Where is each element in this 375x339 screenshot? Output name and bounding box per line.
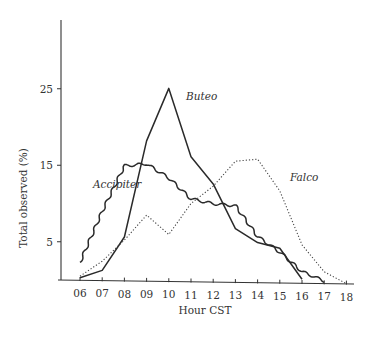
line-chart: 51525 06070809101112131415161718 ButeoAc…: [0, 0, 375, 339]
series-label-accipiter: Accipiter: [92, 178, 142, 190]
y-tick-label: 15: [40, 159, 53, 171]
y-ticks: 51525: [40, 83, 61, 248]
x-tick-label: 10: [162, 288, 175, 300]
x-tick-label: 18: [340, 291, 353, 303]
x-tick-label: 17: [318, 290, 331, 302]
series-label-falco: Falco: [289, 171, 318, 183]
y-tick-label: 25: [40, 83, 53, 95]
x-tick-label: 11: [184, 289, 197, 301]
y-tick-label: 5: [46, 236, 53, 248]
series-label-buteo: Buteo: [185, 90, 217, 102]
x-axis-title: Hour CST: [179, 304, 232, 316]
x-tick-label: 13: [229, 289, 242, 301]
x-tick-label: 08: [118, 288, 131, 300]
x-tick-label: 12: [207, 289, 220, 301]
x-tick-label: 16: [295, 290, 309, 302]
y-axis-title: Total observed (%): [17, 148, 29, 248]
x-tick-label: 15: [273, 290, 286, 302]
x-tick-label: 07: [96, 287, 109, 299]
x-tick-label: 06: [73, 287, 87, 299]
x-tick-label: 09: [140, 288, 153, 300]
x-tick-label: 14: [251, 289, 265, 301]
